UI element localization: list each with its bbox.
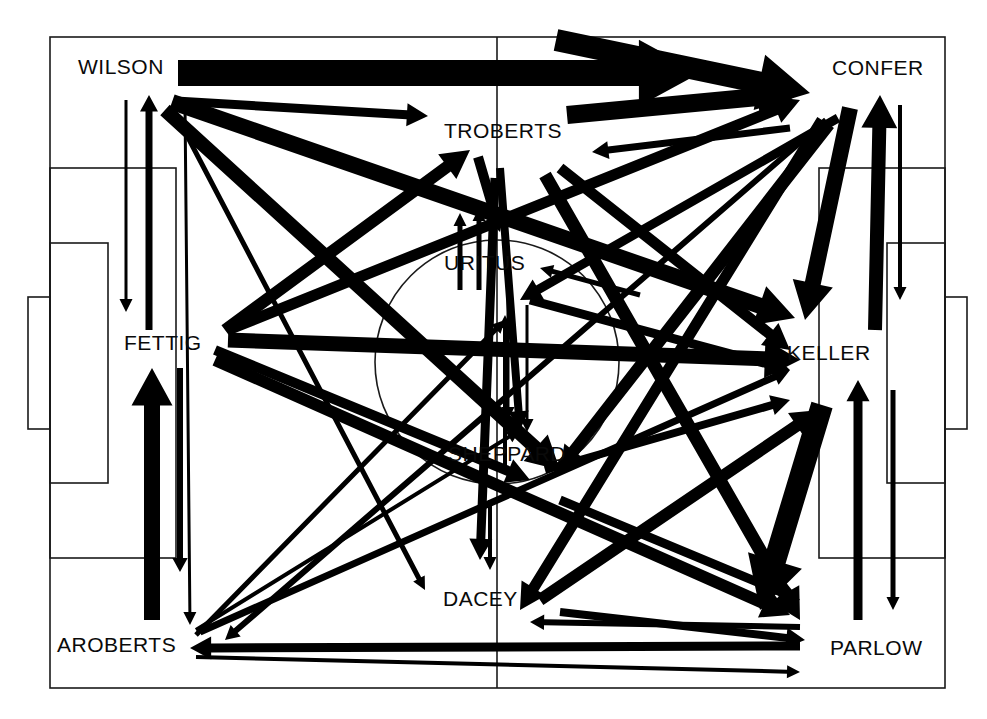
pass-arrow (140, 95, 158, 330)
pass-arrow (846, 380, 869, 620)
pass-arrow (473, 208, 486, 290)
pass-arrow (887, 390, 900, 610)
passing-network-figure: WILSONTROBERTSCONFERFETTIGURITUSKELLERSH… (0, 0, 987, 719)
pass-arrow (190, 636, 800, 659)
player-label-troberts: TROBERTS (444, 120, 562, 141)
player-label-uritus: URITUS (444, 252, 525, 273)
pass-arrow (183, 105, 196, 625)
pass-arrow (539, 172, 800, 620)
goal-area-right (887, 243, 945, 483)
player-label-aroberts: AROBERTS (57, 634, 176, 655)
pass-arrow (894, 105, 907, 300)
player-label-confer: CONFER (832, 57, 924, 78)
player-label-dacey: DACEY (443, 588, 518, 609)
pass-arrow (132, 368, 173, 620)
pass-arrow (172, 368, 187, 572)
player-label-keller: KELLER (787, 342, 871, 363)
player-label-wilson: WILSON (78, 56, 164, 77)
pass-arrow (120, 100, 133, 312)
goal-right (945, 297, 967, 429)
player-label-fettig: FETTIG (124, 332, 202, 353)
pass-arrow (861, 95, 897, 330)
goal-left (28, 297, 50, 429)
player-label-parlow: PARLOW (830, 637, 922, 658)
goal-area-left (50, 243, 108, 483)
player-label-sheppard: SHEPPARD (448, 443, 566, 464)
pass-arrow (196, 655, 800, 678)
